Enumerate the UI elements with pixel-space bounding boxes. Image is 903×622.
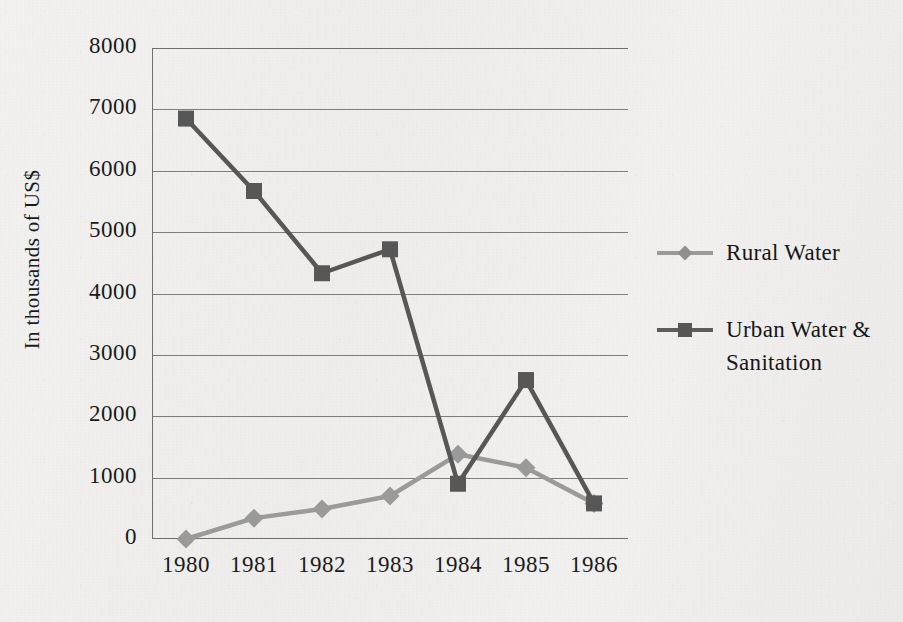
data-point-1983 [382,241,398,257]
legend-label-rural-water: Rural Water [726,236,896,269]
series-rural-water [177,445,604,549]
x-tick-label-1984: 1984 [434,552,482,578]
series-urban-water-sanitation [178,111,602,512]
legend-label-urban-water-sanitation: Urban Water & Sanitation [726,313,896,379]
data-point-1982 [313,499,332,518]
diamond-marker-icon [656,244,714,262]
data-point-1982 [314,265,330,281]
y-axis-title: In thousands of US$ [20,110,45,410]
data-point-1980 [178,111,194,127]
y-tick-label-1000: 1000 [0,463,137,489]
series-layer [152,48,628,539]
x-tick-label-1985: 1985 [502,552,550,578]
legend-entry-urban-water-sanitation[interactable]: Urban Water & Sanitation [656,313,896,379]
chart-page: In thousands of US$ 80007000600050004000… [0,0,903,622]
y-tick-label-0: 0 [0,524,137,550]
x-axis-tick-labels: 1980198119821983198419851986 [152,552,628,586]
data-point-1981 [245,509,264,528]
series-line [186,119,594,504]
chart-legend: Rural Water Urban Water & Sanitation [656,236,896,423]
x-tick-label-1986: 1986 [570,552,618,578]
data-point-1986 [586,495,602,511]
x-tick-label-1983: 1983 [366,552,414,578]
data-point-1984 [450,476,466,492]
x-tick-label-1981: 1981 [230,552,278,578]
data-point-1985 [517,458,536,477]
square-marker-icon [656,321,714,339]
x-tick-label-1982: 1982 [298,552,346,578]
plot-area [152,48,628,539]
y-tick-label-8000: 8000 [0,33,137,59]
legend-entry-rural-water[interactable]: Rural Water [656,236,896,269]
data-point-1980 [177,530,196,549]
data-point-1981 [246,183,262,199]
x-tick-label-1980: 1980 [162,552,210,578]
data-point-1985 [518,372,534,388]
